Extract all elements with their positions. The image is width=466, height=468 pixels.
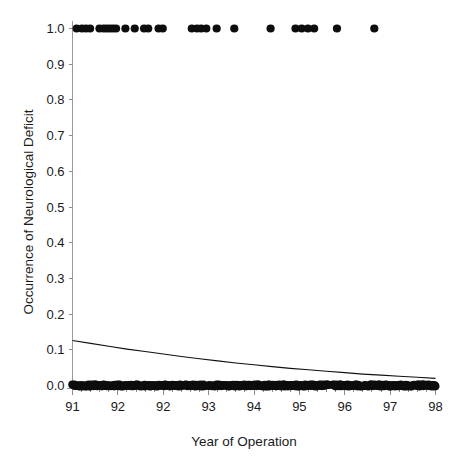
y-tick-label: 0.4 <box>46 235 64 250</box>
y-tick-label: 0.9 <box>46 57 64 72</box>
data-point <box>159 24 167 32</box>
data-point <box>310 24 318 32</box>
data-point <box>431 382 439 390</box>
x-tick-label: 96 <box>338 399 352 414</box>
data-point <box>202 24 210 32</box>
data-point <box>112 24 120 32</box>
y-axis-tick-labels: 0.00.10.20.30.40.50.60.70.80.91.0 <box>46 21 64 393</box>
x-tick-label: 91 <box>65 399 79 414</box>
data-point <box>370 24 378 32</box>
data-point <box>213 24 221 32</box>
x-axis-title: Year of Operation <box>191 434 296 449</box>
x-tick-label: 97 <box>383 399 397 414</box>
data-point <box>266 24 274 32</box>
tick-marks-group <box>69 29 436 396</box>
y-tick-label: 0.5 <box>46 200 64 215</box>
x-tick-label: 95 <box>292 399 306 414</box>
chart-figure: 919292939495969798 0.00.10.20.30.40.50.6… <box>0 0 466 468</box>
y-axis-title: Occurrence of Neurological Deficit <box>21 109 36 314</box>
y-tick-label: 0.7 <box>46 128 64 143</box>
x-tick-label: 94 <box>247 399 261 414</box>
data-points-outcome-zero <box>68 380 439 390</box>
data-point <box>230 24 238 32</box>
data-point <box>144 24 152 32</box>
x-tick-label: 92 <box>156 399 170 414</box>
data-points-outcome-one <box>73 24 379 32</box>
x-tick-label: 98 <box>428 399 442 414</box>
scatter-plot-svg: 919292939495969798 0.00.10.20.30.40.50.6… <box>0 0 466 468</box>
y-tick-label: 0.2 <box>46 307 64 322</box>
y-tick-label: 0.8 <box>46 92 64 107</box>
y-tick-label: 0.0 <box>46 378 64 393</box>
x-tick-label: 93 <box>201 399 215 414</box>
fit-curve-path <box>73 341 436 379</box>
y-tick-label: 0.6 <box>46 164 64 179</box>
data-point <box>333 24 341 32</box>
data-point <box>131 24 139 32</box>
data-point <box>86 24 94 32</box>
y-tick-label: 0.3 <box>46 271 64 286</box>
x-axis-tick-labels: 919292939495969798 <box>65 399 442 414</box>
axes-group <box>67 21 438 389</box>
logistic-fit-curve <box>73 341 436 379</box>
y-tick-label: 0.1 <box>46 342 64 357</box>
data-point <box>121 24 129 32</box>
x-tick-label: 92 <box>111 399 125 414</box>
y-tick-label: 1.0 <box>46 21 64 36</box>
